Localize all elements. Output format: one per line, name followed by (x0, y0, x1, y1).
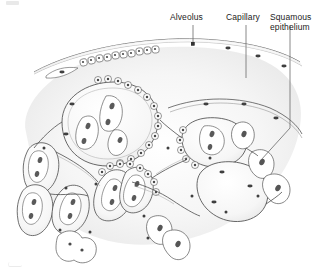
alveolus-lumen (17, 185, 53, 236)
label-squamous-epithelium: Squamousepithelium (270, 13, 311, 32)
bottom-left-mark (8, 262, 22, 267)
leader-marker-alveolus (191, 42, 195, 46)
squamous-epithelial-cell (56, 231, 96, 263)
squamous-epithelial-cell (232, 122, 255, 149)
alveolar-tissue-diagram (0, 0, 327, 272)
top-left-mark (6, 1, 19, 5)
label-capillary: Capillary (226, 13, 260, 23)
label-alveolus: Alveolus (170, 13, 203, 23)
label-squamous-line1: Squamous (270, 12, 311, 22)
label-squamous-line2: epithelium (270, 22, 310, 32)
